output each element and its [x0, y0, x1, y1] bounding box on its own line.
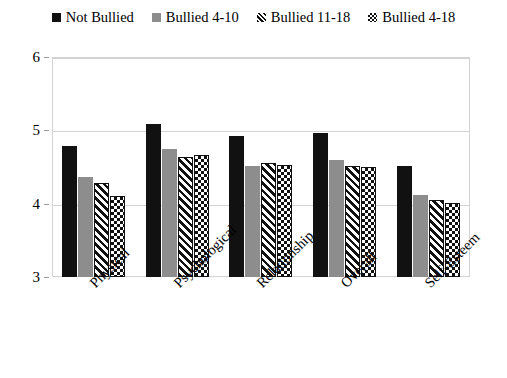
- y-tick-mark: [44, 57, 49, 58]
- legend-label: Bullied 4-10: [166, 10, 239, 25]
- bar-chart: Not Bullied Bullied 4-10 Bullied 11-18 B…: [0, 0, 507, 378]
- chart-legend: Not Bullied Bullied 4-10 Bullied 11-18 B…: [0, 10, 507, 25]
- y-tick-mark: [44, 204, 49, 205]
- bar[interactable]: [78, 177, 93, 277]
- y-tick-mark: [44, 130, 49, 131]
- legend-swatch-solid-black-icon: [52, 13, 61, 22]
- legend-swatch-diagonal-icon: [257, 13, 266, 22]
- bar[interactable]: [146, 124, 161, 277]
- bar-group: [52, 57, 136, 277]
- bar[interactable]: [62, 146, 77, 277]
- legend-swatch-checker-icon: [368, 13, 377, 22]
- x-axis-labels: PhysicalPsychologicalRelationshipOverall…: [52, 280, 470, 375]
- y-axis: 6543: [0, 57, 48, 277]
- legend-item-not-bullied[interactable]: Not Bullied: [52, 10, 134, 25]
- legend-label: Not Bullied: [66, 10, 134, 25]
- bar[interactable]: [162, 149, 177, 277]
- y-tick-label: 6: [0, 50, 40, 65]
- legend-item-bullied-4-10[interactable]: Bullied 4-10: [152, 10, 239, 25]
- legend-swatch-solid-gray-icon: [152, 13, 161, 22]
- bar[interactable]: [413, 195, 428, 277]
- bar-groups: [52, 57, 470, 277]
- legend-item-bullied-11-18[interactable]: Bullied 11-18: [257, 10, 351, 25]
- bar[interactable]: [313, 133, 328, 277]
- legend-label: Bullied 4-18: [382, 10, 455, 25]
- y-tick-label: 4: [0, 196, 40, 211]
- y-tick-label: 5: [0, 123, 40, 138]
- y-tick-mark: [44, 277, 49, 278]
- legend-label: Bullied 11-18: [271, 10, 351, 25]
- bar[interactable]: [229, 136, 244, 277]
- legend-item-bullied-4-18[interactable]: Bullied 4-18: [368, 10, 455, 25]
- bar[interactable]: [329, 160, 344, 277]
- bar[interactable]: [397, 166, 412, 277]
- y-tick-label: 3: [0, 270, 40, 285]
- bar[interactable]: [245, 166, 260, 277]
- bar-group: [303, 57, 387, 277]
